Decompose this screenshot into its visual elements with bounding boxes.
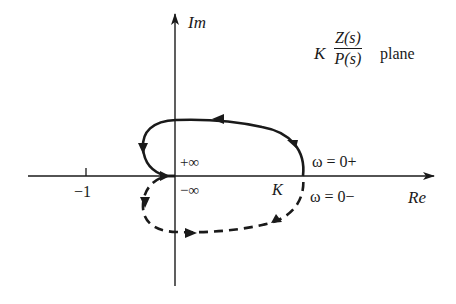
omega-zero-plus-label: ω = 0+ [312, 154, 357, 170]
arrow-lower-bottom-icon [185, 228, 197, 238]
real-axis-label: Re [408, 189, 426, 206]
upper-contour-solid [143, 120, 303, 176]
K-point-label: K [272, 182, 283, 198]
arrow-upper-left-icon [138, 143, 148, 154]
plus-infinity-label: +∞ [180, 155, 199, 170]
imag-axis-label: Im [188, 14, 206, 31]
plane-gain: K [314, 45, 325, 62]
arrow-upper-top-icon [212, 114, 224, 124]
plane-fraction: Z(s) P(s) [334, 30, 362, 67]
plane-suffix: plane [380, 46, 415, 62]
arrow-lower-left-icon [140, 197, 150, 208]
plane-denominator: P(s) [334, 49, 362, 67]
minus-infinity-label: −∞ [180, 183, 199, 198]
tick-minus-one-label: −1 [74, 184, 91, 200]
plane-numerator: Z(s) [334, 30, 362, 49]
arrow-into-origin-icon [160, 171, 170, 181]
omega-zero-minus-label: ω = 0− [310, 189, 355, 205]
